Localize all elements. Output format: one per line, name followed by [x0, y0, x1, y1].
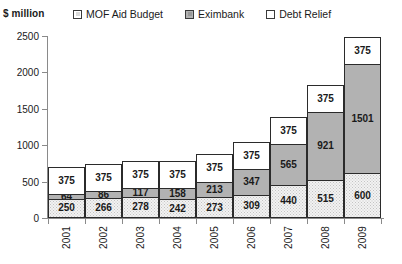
- bar-segment-debt-relief-2002: 266: [85, 198, 122, 218]
- bar-segment-debt-relief-2006: 309: [233, 195, 270, 218]
- x-axis-label-cell: 2005: [196, 226, 233, 262]
- y-axis-tick: [42, 182, 47, 183]
- x-axis-label-cell: 2009: [344, 226, 381, 262]
- y-axis-unit-label: $ million: [3, 8, 44, 19]
- x-axis-label-2004: 2004: [172, 226, 183, 249]
- y-axis-tick: [42, 218, 47, 219]
- stacked-bar-chart: $ million MOF Aid Budget Eximbank Debt R…: [0, 0, 402, 264]
- legend-swatch-mof-icon: [73, 10, 82, 19]
- bar-segment-debt-relief-2009: 600: [344, 173, 381, 218]
- x-axis-label-cell: 2002: [85, 226, 122, 262]
- x-axis-tick: [233, 219, 234, 224]
- legend-item-debt-relief: Debt Relief: [266, 8, 331, 20]
- bar-2005: 375213273: [196, 154, 233, 218]
- bar-2008: 375921515: [307, 85, 344, 218]
- x-axis-label-2008: 2008: [320, 226, 331, 249]
- x-axis-label-2007: 2007: [283, 226, 294, 249]
- bar-2009: 3751501600: [344, 37, 381, 218]
- bar-group: 3756425037586266375117278375158242375213…: [48, 36, 381, 218]
- bar-segment-eximbank-2005: 213: [196, 182, 233, 199]
- x-axis-tick: [270, 219, 271, 224]
- x-axis-label-2002: 2002: [98, 226, 109, 249]
- y-axis-tick: [42, 72, 47, 73]
- y-axis-tick-label: 1500: [17, 103, 39, 114]
- x-axis-label-2005: 2005: [209, 226, 220, 249]
- bar-segment-mof-aid-budget-2006: 375: [233, 142, 270, 170]
- bar-2002: 37586266: [85, 164, 122, 218]
- x-axis-label-2006: 2006: [246, 226, 257, 249]
- x-axis-label-cell: 2008: [307, 226, 344, 262]
- bar-segment-eximbank-2007: 565: [270, 144, 307, 186]
- y-axis-tick-label: 500: [22, 176, 39, 187]
- legend-swatch-debt-relief-icon: [266, 10, 275, 19]
- legend-label-mof-aid-budget: MOF Aid Budget: [86, 8, 163, 20]
- bar-segment-eximbank-2009: 1501: [344, 64, 381, 174]
- x-axis-tick: [85, 219, 86, 224]
- bar-2001: 37564250: [48, 167, 85, 218]
- y-axis-tick: [42, 145, 47, 146]
- y-axis-tick-label: 0: [33, 213, 39, 224]
- x-axis-tick: [344, 219, 345, 224]
- bar-segment-mof-aid-budget-2003: 375: [122, 161, 159, 189]
- legend-label-debt-relief: Debt Relief: [279, 8, 331, 20]
- bar-2003: 375117278: [122, 161, 159, 218]
- x-axis-label-2003: 2003: [135, 226, 146, 249]
- bar-segment-debt-relief-2007: 440: [270, 185, 307, 218]
- bar-segment-mof-aid-budget-2004: 375: [159, 161, 196, 189]
- bar-segment-mof-aid-budget-2008: 375: [307, 85, 344, 113]
- bar-segment-debt-relief-2001: 250: [48, 199, 85, 218]
- x-axis-label-cell: 2007: [270, 226, 307, 262]
- legend-item-mof-aid-budget: MOF Aid Budget: [73, 8, 163, 20]
- x-axis-tick: [196, 219, 197, 224]
- x-axis-label-cell: 2004: [159, 226, 196, 262]
- x-axis-labels: 200120022003200420052006200720082009: [48, 226, 385, 262]
- legend-item-eximbank: Eximbank: [185, 8, 244, 20]
- x-axis-tick: [307, 219, 308, 224]
- bar-segment-debt-relief-2008: 515: [307, 180, 344, 218]
- bar-segment-mof-aid-budget-2002: 375: [85, 164, 122, 192]
- x-axis-ticks: [48, 219, 385, 225]
- y-axis-tick-label: 2500: [17, 31, 39, 42]
- x-axis-label-2009: 2009: [357, 226, 368, 249]
- bar-segment-debt-relief-2005: 273: [196, 197, 233, 218]
- bar-segment-mof-aid-budget-2005: 375: [196, 154, 233, 182]
- plot-area: 25002000150010005000 3756425037586266375…: [47, 36, 384, 219]
- bar-2007: 375565440: [270, 117, 307, 218]
- bar-segment-debt-relief-2003: 278: [122, 197, 159, 218]
- y-axis-tick-label: 2000: [17, 67, 39, 78]
- bar-2006: 375347309: [233, 142, 270, 218]
- x-axis-tick: [381, 219, 382, 224]
- bar-segment-eximbank-2008: 921: [307, 112, 344, 180]
- chart-legend: MOF Aid Budget Eximbank Debt Relief: [73, 8, 331, 20]
- x-axis-tick: [48, 219, 49, 224]
- bar-segment-eximbank-2006: 347: [233, 169, 270, 195]
- legend-swatch-eximbank-icon: [185, 10, 194, 19]
- bar-segment-mof-aid-budget-2001: 375: [48, 167, 85, 195]
- y-axis-tick-label: 1000: [17, 140, 39, 151]
- bar-2004: 375158242: [159, 161, 196, 218]
- x-axis-label-cell: 2001: [48, 226, 85, 262]
- bar-segment-mof-aid-budget-2009: 375: [344, 37, 381, 65]
- bar-segment-mof-aid-budget-2007: 375: [270, 117, 307, 145]
- y-axis-tick: [42, 109, 47, 110]
- x-axis-tick: [122, 219, 123, 224]
- x-axis-label-cell: 2003: [122, 226, 159, 262]
- y-axis-tick: [42, 36, 47, 37]
- x-axis-tick: [159, 219, 160, 224]
- x-axis-label-2001: 2001: [61, 226, 72, 249]
- bar-segment-debt-relief-2004: 242: [159, 199, 196, 218]
- legend-label-eximbank: Eximbank: [198, 8, 244, 20]
- x-axis-label-cell: 2006: [233, 226, 270, 262]
